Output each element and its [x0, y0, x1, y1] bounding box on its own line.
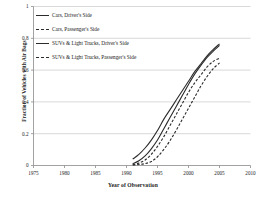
chart-legend: Cars, Driver's SideCars, Passenger's Sid…: [36, 8, 186, 64]
solid-line-icon: [36, 40, 49, 47]
x-tick-label: 1980: [50, 170, 80, 176]
legend-item-label: SUVs & Light Trucks, Passenger's Side: [52, 54, 136, 61]
dashed-line-icon: [36, 54, 49, 61]
y-tick-label: 0: [7, 162, 29, 168]
x-tick-label: 2005: [205, 170, 235, 176]
x-tick-label: 2010: [236, 170, 266, 176]
legend-item-label: SUVs & Light Trucks, Driver's Side: [52, 40, 129, 47]
x-tick-label: 1985: [81, 170, 111, 176]
x-axis-title: Year of Observation: [0, 182, 266, 188]
x-tick-label: 1990: [112, 170, 142, 176]
legend-item: SUVs & Light Trucks, Driver's Side: [36, 36, 186, 50]
y-tick-label: 1: [7, 3, 29, 9]
series-line: [133, 58, 220, 165]
dashed-line-icon: [36, 26, 49, 33]
legend-item: Cars, Passenger's Side: [36, 22, 186, 36]
x-tick-label: 1975: [19, 170, 49, 176]
x-tick-label: 1995: [143, 170, 173, 176]
chart-figure: 00.20.40.60.81 1975198019851990199520002…: [0, 0, 266, 198]
legend-item: Cars, Driver's Side: [36, 8, 186, 22]
legend-item-label: Cars, Passenger's Side: [52, 26, 99, 33]
legend-item-label: Cars, Driver's Side: [52, 12, 92, 19]
solid-line-icon: [36, 12, 49, 19]
y-axis-title: Fraction of Vehicles with Air Bags: [21, 16, 27, 146]
x-tick-label: 2000: [174, 170, 204, 176]
legend-item: SUVs & Light Trucks, Passenger's Side: [36, 50, 186, 64]
